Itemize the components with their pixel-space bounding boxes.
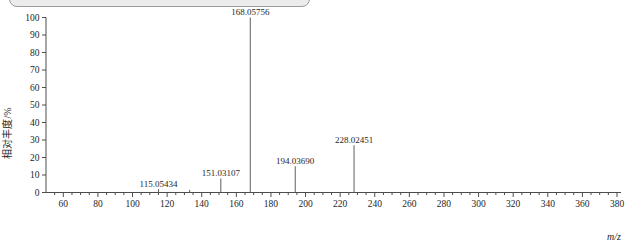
x-tick-label: 80 <box>93 199 103 209</box>
y-tick-label: 70 <box>30 65 40 75</box>
peak-label: 151.03107 <box>202 168 241 178</box>
x-tick-label: 160 <box>229 199 244 209</box>
x-tick-label: 120 <box>160 199 175 209</box>
mass-spectrum-figure: 6080100120140160180200220240260280300320… <box>0 0 639 245</box>
x-tick-label: 320 <box>506 199 521 209</box>
x-tick-label: 260 <box>402 199 417 209</box>
peak-label: 168.05756 <box>231 7 270 17</box>
peak-label: 115.05434 <box>140 179 178 189</box>
x-tick-label: 100 <box>125 199 140 209</box>
x-tick-label: 220 <box>333 199 348 209</box>
x-tick-label: 200 <box>298 199 313 209</box>
x-tick-label: 300 <box>471 199 486 209</box>
y-tick-label: 0 <box>35 188 40 198</box>
y-tick-label: 10 <box>30 170 40 180</box>
y-tick-label: 50 <box>30 100 40 110</box>
y-axis-title: 相对丰度/% <box>1 107 13 158</box>
x-tick-label: 380 <box>610 199 625 209</box>
peak-label: 194.03690 <box>276 156 315 166</box>
y-tick-label: 20 <box>30 153 40 163</box>
y-tick-label: 60 <box>30 83 40 93</box>
x-tick-label: 140 <box>195 199 210 209</box>
y-tick-label: 40 <box>30 118 40 128</box>
y-tick-label: 90 <box>30 30 40 40</box>
y-tick-label: 100 <box>25 13 40 23</box>
x-tick-label: 240 <box>368 199 383 209</box>
mass-spectrum-chart: 6080100120140160180200220240260280300320… <box>0 0 639 245</box>
y-tick-label: 30 <box>30 135 40 145</box>
y-tick-label: 80 <box>30 48 40 58</box>
x-tick-label: 360 <box>575 199 590 209</box>
x-tick-label: 60 <box>59 199 69 209</box>
x-tick-label: 280 <box>437 199 452 209</box>
x-tick-label: 340 <box>541 199 556 209</box>
x-axis-title: m/z <box>607 231 621 242</box>
x-tick-label: 180 <box>264 199 279 209</box>
peak-label: 228.02451 <box>335 135 373 145</box>
